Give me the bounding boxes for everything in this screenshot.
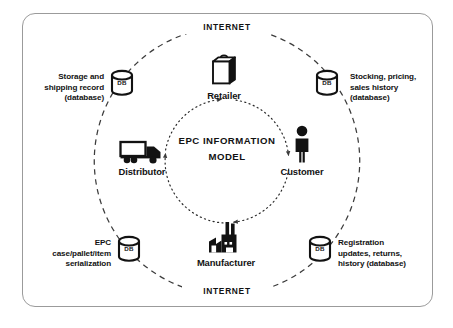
database-note-bottom-right: Registration updates, returns, history (… bbox=[338, 238, 430, 270]
entity-label-retailer: Retailer bbox=[179, 90, 269, 102]
database-icon-label: DB bbox=[109, 79, 135, 86]
database-note-top-right: Stocking, pricing, sales history (databa… bbox=[350, 72, 442, 104]
internet-label-top: INTERNET bbox=[182, 21, 272, 34]
database-icon-label: DB bbox=[116, 245, 142, 252]
database-cylinder-icon: DB bbox=[109, 68, 135, 98]
factory-icon bbox=[206, 222, 246, 255]
database-icon-label: DB bbox=[314, 79, 340, 86]
entity-label-manufacturer: Manufacturer bbox=[181, 257, 271, 269]
entity-label-distributor: Distributor bbox=[97, 166, 187, 178]
internet-label-bottom: INTERNET bbox=[182, 285, 272, 298]
database-note-bottom-left: EPC case/pallet/item serialization bbox=[19, 238, 111, 270]
diagram-canvas: INTERNET INTERNET EPC INFORMATION MODEL … bbox=[0, 0, 453, 328]
person-icon bbox=[291, 125, 313, 163]
database-cylinder-icon: DB bbox=[314, 68, 340, 98]
shopping-bag-icon bbox=[207, 49, 241, 87]
database-cylinder-icon: DB bbox=[116, 234, 142, 264]
truck-icon bbox=[119, 139, 165, 165]
entity-label-customer: Customer bbox=[257, 166, 347, 178]
database-cylinder-icon: DB bbox=[307, 234, 333, 264]
center-title: EPC INFORMATION MODEL bbox=[167, 133, 287, 165]
database-note-top-left: Storage and shipping record (database) bbox=[12, 72, 104, 104]
database-icon-label: DB bbox=[307, 245, 333, 252]
